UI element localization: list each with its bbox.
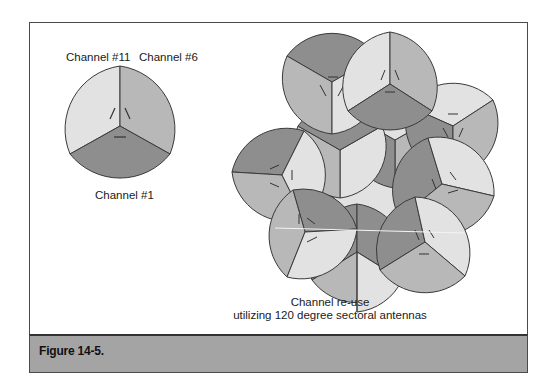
caption-line-1: Channel re-use [180, 296, 480, 309]
single-cell-diagram [65, 66, 175, 178]
figure-caption: Figure 14-5. [39, 344, 104, 358]
caption-line-2: utilizing 120 degree sectoral antennas [180, 309, 480, 322]
label-channel-11: Channel #11 [66, 51, 130, 63]
cluster-diagram [232, 32, 498, 312]
label-channel-1: Channel #1 [95, 189, 154, 201]
figure-caption-band: Figure 14-5. [29, 334, 528, 373]
label-channel-6: Channel #6 [139, 51, 198, 63]
channel-reuse-caption: Channel re-use utilizing 120 degree sect… [180, 296, 480, 322]
